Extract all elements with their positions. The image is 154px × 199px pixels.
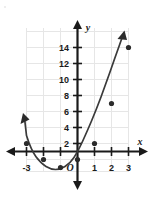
y-axis-bottom-arrow [73,181,82,190]
data-point [41,157,46,162]
data-point [24,141,29,146]
data-point [75,157,80,162]
x-tick-label-2: 2 [109,163,114,173]
x-tick-label-3: 3 [126,163,131,173]
data-point [109,101,114,106]
graph-figure: 2 4 6 8 10 12 14 -3 1 2 3 O x y [0,0,154,199]
y-tick-label-6: 6 [64,107,69,117]
y-tick-label-2: 2 [64,139,69,149]
x-axis-left-arrow [6,147,15,156]
x-axis-right-arrow [139,147,148,156]
y-tick-label-8: 8 [64,91,69,101]
y-tick-label-12: 12 [59,59,69,69]
x-tick-label-minus-3: -3 [22,163,30,173]
data-point [92,141,97,146]
y-tick-label-14: 14 [59,43,69,53]
y-tick-label-4: 4 [64,123,69,133]
y-tick-label-10: 10 [59,75,69,85]
x-axis-label: x [137,136,143,147]
data-point [58,165,63,170]
data-point [126,45,131,50]
coordinate-plane: 2 4 6 8 10 12 14 -3 1 2 3 O x y [0,0,154,199]
y-axis-top-arrow [73,20,82,29]
y-axis-label: y [85,22,91,33]
y-axis [73,20,82,190]
x-tick-label-1: 1 [92,163,97,173]
